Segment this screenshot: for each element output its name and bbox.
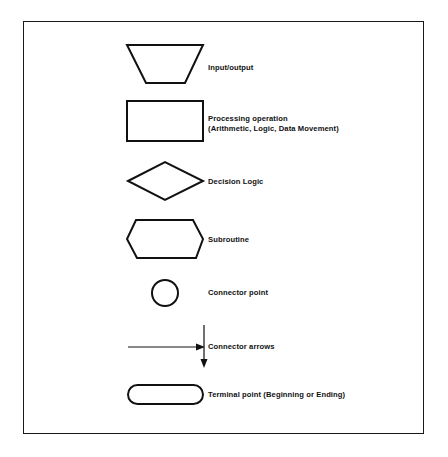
decision-diamond-icon	[128, 162, 203, 200]
processing-label-line2: (Arithmetic, Logic, Data Movement)	[208, 123, 339, 134]
subroutine-hexagon-icon	[127, 220, 203, 258]
input-output-trapezoid-icon	[127, 45, 203, 83]
connector-arrows-label: Connector arrows	[208, 341, 275, 352]
processing-rectangle-icon	[127, 101, 203, 141]
terminal-point-label: Terminal point (Beginning or Ending)	[208, 389, 345, 400]
decision-logic-label: Decision Logic	[208, 176, 263, 187]
input-output-label: Input/output	[208, 62, 253, 73]
terminal-point-rounded-rect-icon	[128, 385, 203, 404]
connector-arrows-icon	[128, 325, 208, 368]
connector-point-circle-icon	[152, 280, 178, 306]
connector-point-label: Connector point	[208, 287, 268, 298]
subroutine-label: Subroutine	[208, 234, 249, 245]
